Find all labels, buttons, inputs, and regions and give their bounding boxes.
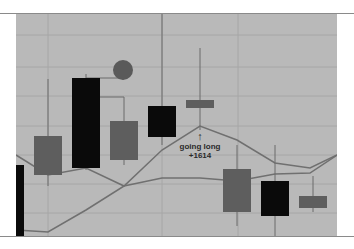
marker-circle: [113, 60, 133, 80]
candle-body: [110, 121, 138, 160]
candle-body: [34, 136, 62, 175]
candle-body: [16, 165, 24, 236]
candlestick-chart: ↑ going long +1614: [16, 14, 337, 236]
up-arrow-icon: ↑: [170, 131, 230, 142]
chart-canvas: [16, 14, 337, 236]
candle-body: [72, 78, 100, 168]
candle-body: [261, 181, 289, 216]
annotation-value: +1614: [170, 151, 230, 160]
candle-body: [186, 100, 214, 108]
annotation-label: going long: [170, 142, 230, 151]
going-long-annotation: ↑ going long +1614: [170, 131, 230, 160]
chart-bottom-border: [0, 236, 354, 237]
candle-body: [223, 169, 251, 212]
candle-body: [299, 196, 327, 208]
